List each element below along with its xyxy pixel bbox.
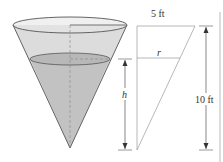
cone-diagram: h 5 ft r 10 ft [0,0,223,162]
label-height-10ft: 10 ft [195,94,214,105]
label-top-radius: 5 ft [151,8,165,19]
label-h: h [122,89,127,100]
label-r: r [157,47,161,58]
